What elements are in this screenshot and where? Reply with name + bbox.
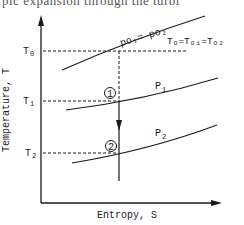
svg-text:2: 2 (162, 133, 166, 141)
y-axis-title: Temperature, T (1, 68, 12, 152)
stagnation-temperature-label: Tₒ=Tₒ₁=Tₒ₂ (167, 36, 224, 47)
svg-text:P: P (155, 128, 161, 139)
ts-diagram: 1 2 T 0 T 1 T 2 Temperature, T Entropy, … (0, 0, 244, 225)
state-2-marker: 2 (106, 141, 117, 154)
stagnation-pressure-label: po₁= po₂ (119, 25, 168, 49)
state-1-marker: 1 (105, 88, 116, 101)
svg-text:P: P (155, 81, 161, 92)
t1-tick-label: T 1 (23, 96, 34, 108)
y-axis (38, 15, 44, 203)
p2-label: P 2 (155, 128, 166, 141)
x-axis-arrow-icon (211, 200, 222, 206)
svg-text:2: 2 (32, 152, 36, 160)
svg-text:1: 1 (30, 100, 34, 108)
y-axis-arrow-icon (38, 15, 44, 26)
process-arrow-down-icon (116, 120, 122, 131)
x-axis-title: Entropy, S (97, 210, 157, 221)
svg-text:T: T (23, 96, 29, 107)
state-2-label: 2 (108, 142, 114, 153)
p2-isobar-curve (72, 125, 217, 163)
state-1-label: 1 (107, 89, 113, 100)
x-axis (41, 200, 222, 206)
t0-tick-label: T 0 (23, 46, 34, 58)
p1-label: P 1 (155, 81, 166, 94)
svg-text:0: 0 (30, 50, 34, 58)
svg-text:T: T (23, 46, 29, 57)
p1-isobar-curve (66, 78, 218, 110)
t2-tick-label: T 2 (25, 148, 36, 160)
svg-text:T: T (25, 148, 31, 159)
svg-text:1: 1 (162, 86, 166, 94)
